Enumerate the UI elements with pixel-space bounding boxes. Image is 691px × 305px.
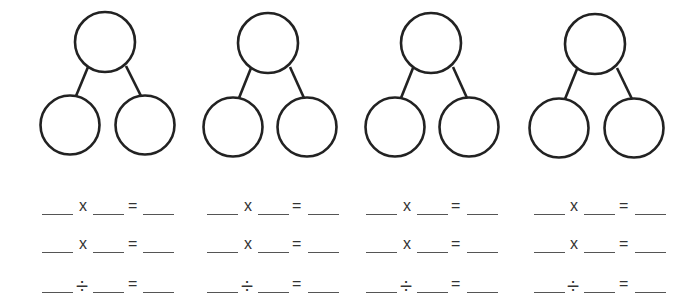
equation-row-3: ÷ = [534,273,684,293]
number-bond-diagram [0,0,691,165]
equals-sign: = [451,198,460,214]
multiply-sign: x [403,236,411,252]
answer-blank[interactable] [42,252,73,253]
equals-sign: = [128,276,137,292]
answer-blank[interactable] [467,292,498,293]
answer-blank[interactable] [258,214,289,215]
divide-sign: ÷ [76,278,88,294]
equals-sign: = [292,198,301,214]
equation-row-3: ÷ = [42,273,192,293]
answer-blank[interactable] [93,292,124,293]
answer-blank[interactable] [584,252,615,253]
equals-sign: = [619,198,628,214]
equals-sign: = [128,236,137,252]
answer-blank[interactable] [366,252,397,253]
multiply-sign: x [244,198,252,214]
answer-blank[interactable] [584,214,615,215]
multiply-sign: x [244,236,252,252]
equals-sign: = [619,276,628,292]
answer-blank[interactable] [417,292,448,293]
equals-sign: = [451,236,460,252]
answer-blank[interactable] [584,292,615,293]
answer-blank[interactable] [467,252,498,253]
answer-blank[interactable] [534,252,565,253]
equals-sign: = [292,276,301,292]
answer-blank[interactable] [417,214,448,215]
number-bond-4 [0,0,160,165]
answer-blank[interactable] [258,252,289,253]
equals-sign: = [292,236,301,252]
answer-blank[interactable] [635,214,666,215]
answer-blank[interactable] [308,214,339,215]
equation-row-1: x = [42,195,192,215]
answer-blank[interactable] [207,292,238,293]
whole-circle [565,14,625,74]
equals-sign: = [128,198,137,214]
answer-blank[interactable] [635,292,666,293]
answer-blank[interactable] [534,214,565,215]
equals-sign: = [451,276,460,292]
answer-blank[interactable] [42,214,73,215]
answer-blank[interactable] [534,292,565,293]
answer-blank[interactable] [366,214,397,215]
equation-row-1: x = [366,195,516,215]
answer-blank[interactable] [143,292,174,293]
divide-sign: ÷ [400,278,412,294]
equation-row-3: ÷ = [207,273,357,293]
equals-sign: = [619,236,628,252]
multiply-sign: x [570,236,578,252]
answer-blank[interactable] [635,252,666,253]
answer-blank[interactable] [207,252,238,253]
multiply-sign: x [79,236,87,252]
answer-blank[interactable] [143,214,174,215]
divide-sign: ÷ [241,278,253,294]
equation-row-1: x = [534,195,684,215]
answer-blank[interactable] [366,292,397,293]
answer-blank[interactable] [42,292,73,293]
equation-row-2: x = [366,233,516,253]
multiply-sign: x [570,198,578,214]
answer-blank[interactable] [258,292,289,293]
equation-row-3: ÷ = [366,273,516,293]
part-circle-right [605,99,664,158]
equation-row-1: x = [207,195,357,215]
equation-row-2: x = [207,233,357,253]
multiply-sign: x [79,198,87,214]
answer-blank[interactable] [207,214,238,215]
answer-blank[interactable] [467,214,498,215]
answer-blank[interactable] [308,252,339,253]
answer-blank[interactable] [93,214,124,215]
multiply-sign: x [403,198,411,214]
equation-row-2: x = [42,233,192,253]
part-circle-left [530,99,589,158]
equation-row-2: x = [534,233,684,253]
answer-blank[interactable] [417,252,448,253]
answer-blank[interactable] [308,292,339,293]
answer-blank[interactable] [93,252,124,253]
divide-sign: ÷ [567,278,579,294]
answer-blank[interactable] [143,252,174,253]
